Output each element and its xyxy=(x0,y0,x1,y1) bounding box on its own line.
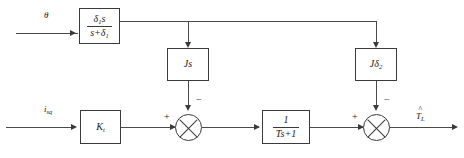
torque-gain-block: Kt xyxy=(80,110,121,144)
gain-to-sum1-line xyxy=(121,127,175,128)
washout-filter-expression: δ1s s+δ1 xyxy=(87,14,112,38)
sum2-left-sign: + xyxy=(352,112,358,122)
washout-filter-block: δ1s s+δ1 xyxy=(79,8,120,44)
summing-junction-2 xyxy=(363,114,390,141)
lag-filter-expression: 1 Ts+1 xyxy=(273,115,299,139)
output-line xyxy=(390,127,456,128)
inertia-delta-output-arrowhead xyxy=(373,105,379,111)
output-hat-accent: ^ xyxy=(418,105,422,114)
current-input-label: isq xyxy=(44,105,52,114)
inertia-s-block: Js xyxy=(167,48,209,81)
current-input-arrowhead xyxy=(71,124,77,130)
lag-input-arrowhead xyxy=(254,124,260,130)
summing-junction-1 xyxy=(175,114,202,141)
sum1-to-lag-line xyxy=(202,127,259,128)
theta-input-arrowhead xyxy=(70,30,76,36)
top-bus-line xyxy=(120,21,377,22)
inertia-delta-label: Jδ2 xyxy=(370,59,382,70)
sum2-top-sign: − xyxy=(384,95,390,105)
theta-input-label: θ xyxy=(44,11,48,20)
output-label: ^TL xyxy=(416,111,425,121)
current-input-line xyxy=(6,127,74,128)
inertia-s-output-arrowhead xyxy=(185,105,191,111)
lag-filter-numerator: 1 xyxy=(273,115,299,127)
washout-numerator: δ1s xyxy=(87,14,112,26)
inertia-s-output-line xyxy=(188,81,189,108)
sum1-top-sign: − xyxy=(196,95,202,105)
torque-gain-label: Kt xyxy=(96,122,104,133)
inertia-delta-output-line xyxy=(376,81,377,108)
sum1-left-sign: + xyxy=(164,112,170,122)
theta-input-line xyxy=(16,33,78,34)
washout-denominator: s+δ1 xyxy=(87,26,112,39)
inertia-delta-block: Jδ2 xyxy=(355,48,397,81)
lag-filter-block: 1 Ts+1 xyxy=(262,110,310,144)
inertia-s-label: Js xyxy=(184,59,192,70)
block-diagram-canvas: θ δ1s s+δ1 Js Jδ2 isq Kt + − 1 Ts+1 xyxy=(0,0,464,158)
output-arrowhead xyxy=(452,124,458,130)
lag-to-sum2-line xyxy=(310,127,363,128)
lag-filter-denominator: Ts+1 xyxy=(273,127,299,140)
